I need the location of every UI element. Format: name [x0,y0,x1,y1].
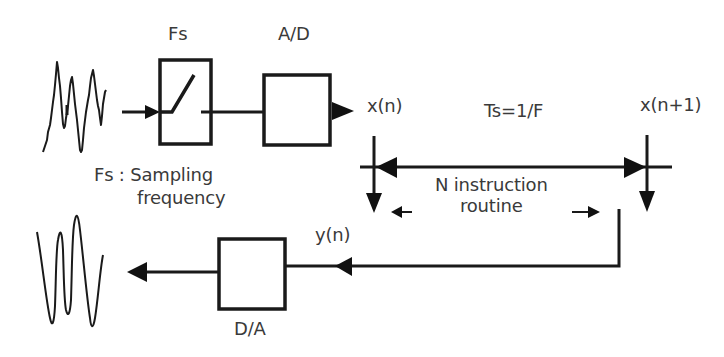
sampler-block [160,60,211,144]
sample-n1-marker [639,135,655,212]
adc-block [264,75,330,145]
output-sample-label: y(n) [315,226,350,244]
routine-span-left-arrow [391,206,412,218]
adc-output-arrow [332,102,354,120]
routine-span-right-arrow [572,206,600,218]
dac-label: D/A [234,320,266,338]
fs-definition-line1: Fs : Sampling [94,166,213,184]
routine-label-line1: N instruction [435,176,548,194]
sample-n1-label: x(n+1) [640,96,701,114]
sampling-period-label: Ts=1/F [484,102,543,120]
switch-icon [160,75,211,112]
noisy-input-signal-icon [43,62,106,152]
input-arrow [122,105,160,119]
fs-definition-line2: frequency [137,189,225,207]
dac-block [219,239,285,309]
switch-label: Fs [168,25,187,43]
routine-label-line2: routine [460,197,523,215]
sample-n-label: x(n) [367,97,402,115]
dsp-block-diagram: Fs A/D Fs : Sampling frequency x(n) Ts=1… [0,0,724,357]
smooth-output-signal-icon [37,216,103,326]
sample-n-marker [366,136,382,213]
dac-output-arrow [127,262,219,282]
adc-label: A/D [278,25,310,43]
